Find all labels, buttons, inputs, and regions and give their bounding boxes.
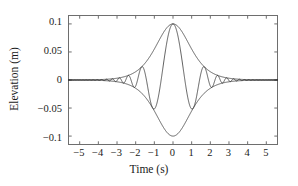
xtick-label-5: 0 [170,148,175,159]
ytick-label-0: 0.1 [26,17,62,28]
x-axis-label: Time (s) [0,163,298,175]
xtick-label-2: −3 [111,148,122,159]
xtick-label-10: 5 [263,148,268,159]
ytick-label-3: −0.05 [26,104,62,115]
wave-packet-chart: 0.1 0.05 0 −0.05 −0.1 −5 −4 −3 −2 −1 0 1… [0,0,298,186]
xtick-label-0: −5 [73,148,84,159]
xtick-label-6: 1 [188,148,193,159]
y-axis-label: Elevation (m) [8,17,20,141]
ytick-label-2: 0 [26,75,62,86]
xtick-label-4: −1 [148,148,159,159]
xtick-label-1: −4 [92,148,103,159]
xtick-label-8: 3 [226,148,231,159]
ytick-label-4: −0.1 [26,133,62,144]
xtick-label-9: 4 [244,148,249,159]
ytick-label-1: 0.05 [26,46,62,57]
xtick-label-3: −2 [129,148,140,159]
xtick-label-7: 2 [207,148,212,159]
